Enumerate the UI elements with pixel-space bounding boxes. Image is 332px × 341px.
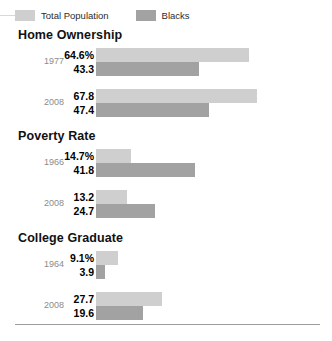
- bar-row-total-population: 14.7%: [0, 149, 332, 163]
- legend-item-total-population: Total Population: [15, 10, 109, 21]
- section-title-college-graduate: College Graduate: [18, 231, 123, 245]
- bar-row-blacks: 47.4: [0, 103, 332, 117]
- bar-group-2008: 2008 67.8 47.4: [0, 89, 332, 117]
- value-label-total-population: 67.8: [34, 90, 94, 102]
- bar-row-blacks: 3.9: [0, 265, 332, 279]
- value-label-blacks: 47.4: [34, 104, 94, 116]
- bar-group-1964: 1964 9.1% 3.9: [0, 251, 332, 279]
- chart-page: Total Population Blacks Home Ownership 1…: [0, 0, 332, 341]
- bar-total-population: [96, 149, 131, 163]
- bar-blacks: [96, 62, 199, 76]
- bar-row-blacks: 41.8: [0, 163, 332, 177]
- bar-blacks: [96, 103, 209, 117]
- section-title-poverty-rate: Poverty Rate: [18, 129, 96, 143]
- bar-row-total-population: 27.7: [0, 292, 332, 306]
- bar-group-2008: 2008 13.2 24.7: [0, 190, 332, 218]
- bar-row-total-population: 9.1%: [0, 251, 332, 265]
- value-label-blacks: 43.3: [34, 63, 94, 75]
- bar-row-blacks: 24.7: [0, 204, 332, 218]
- bar-total-population: [96, 89, 257, 103]
- bar-total-population: [96, 190, 127, 204]
- bar-total-population: [96, 48, 249, 62]
- legend-swatch-icon-total-population: [15, 10, 35, 21]
- value-label-total-population: 27.7: [34, 293, 94, 305]
- bar-group-2008: 2008 27.7 19.6: [0, 292, 332, 320]
- section-title-home-ownership: Home Ownership: [18, 28, 122, 42]
- value-label-total-population: 64.6%: [34, 49, 94, 61]
- legend-label-total-population: Total Population: [41, 10, 109, 21]
- chart-legend: Total Population Blacks: [15, 9, 217, 22]
- bar-blacks: [96, 163, 195, 177]
- value-label-total-population: 13.2: [34, 191, 94, 203]
- value-label-blacks: 41.8: [34, 164, 94, 176]
- value-label-blacks: 24.7: [34, 205, 94, 217]
- bar-row-total-population: 67.8: [0, 89, 332, 103]
- bar-group-1966: 1966 14.7% 41.8: [0, 149, 332, 177]
- bar-group-1977: 1977 64.6% 43.3: [0, 48, 332, 76]
- value-label-total-population: 14.7%: [34, 150, 94, 162]
- value-label-blacks: 19.6: [34, 307, 94, 319]
- bar-row-total-population: 64.6%: [0, 48, 332, 62]
- bar-blacks: [96, 204, 155, 218]
- value-label-blacks: 3.9: [34, 266, 94, 278]
- bar-total-population: [96, 251, 118, 265]
- bar-row-blacks: 43.3: [0, 62, 332, 76]
- bottom-divider: [15, 324, 320, 325]
- legend-label-blacks: Blacks: [162, 10, 190, 21]
- bar-total-population: [96, 292, 162, 306]
- value-label-total-population: 9.1%: [34, 252, 94, 264]
- bar-row-blacks: 19.6: [0, 306, 332, 320]
- bar-blacks: [96, 306, 143, 320]
- bar-blacks: [96, 265, 105, 279]
- legend-item-blacks: Blacks: [136, 10, 190, 21]
- legend-swatch-icon-blacks: [136, 10, 156, 21]
- bar-row-total-population: 13.2: [0, 190, 332, 204]
